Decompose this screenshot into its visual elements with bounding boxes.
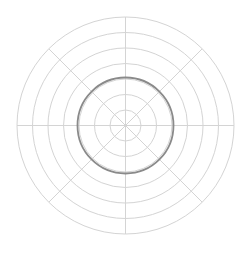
grid-spoke bbox=[126, 126, 203, 203]
polar-spokes bbox=[17, 17, 234, 234]
grid-spoke bbox=[49, 49, 126, 126]
grid-spoke bbox=[49, 126, 126, 203]
polar-grid-chart bbox=[0, 0, 249, 254]
grid-spoke bbox=[126, 49, 203, 126]
